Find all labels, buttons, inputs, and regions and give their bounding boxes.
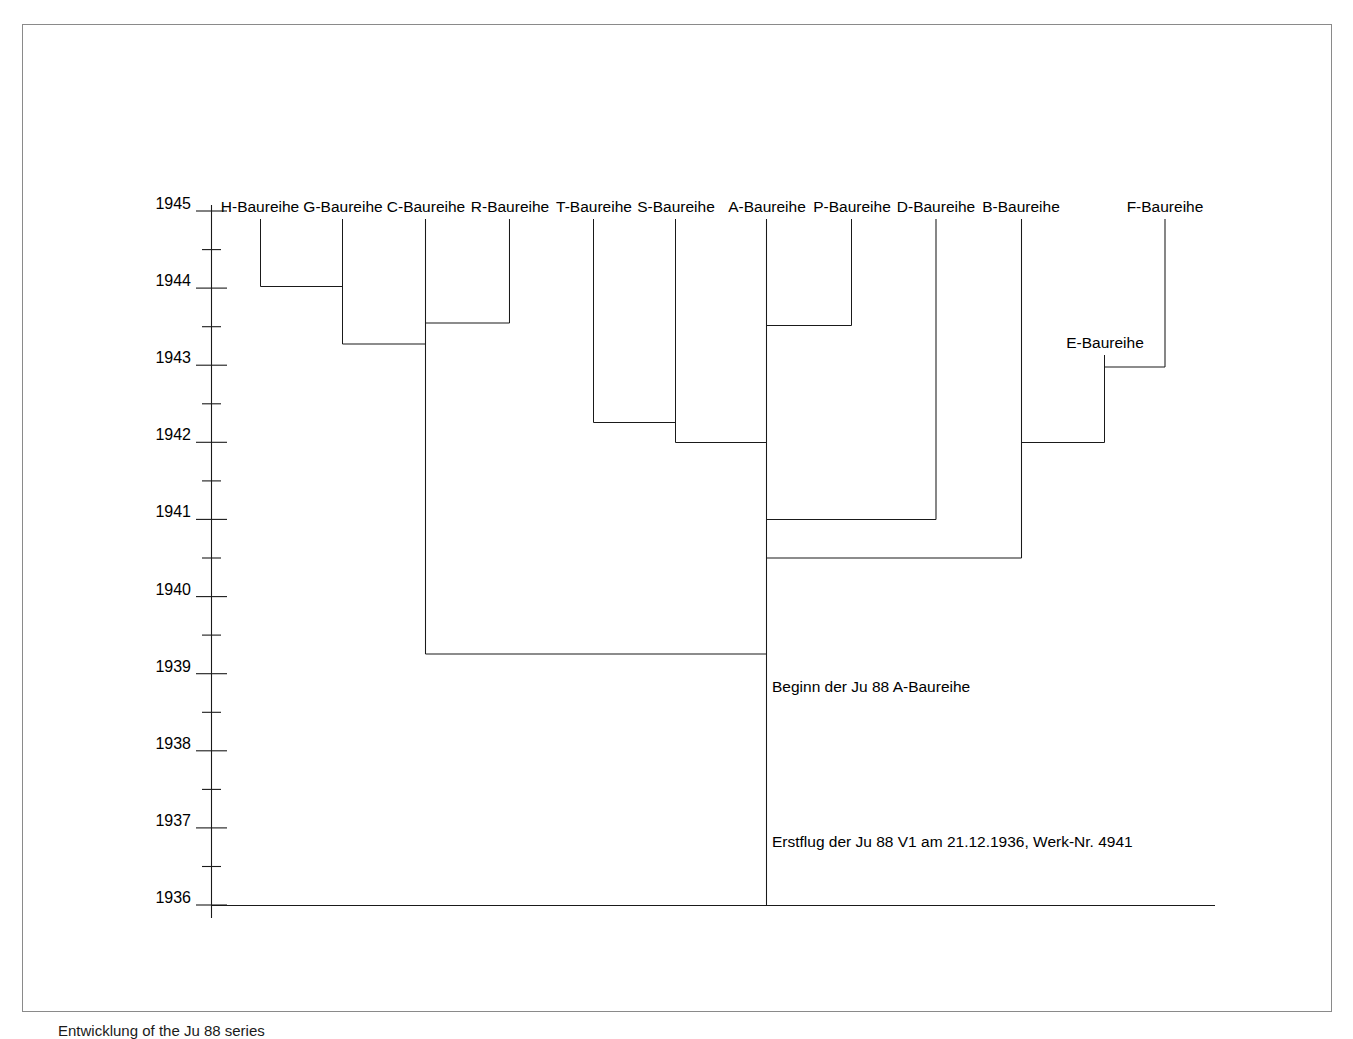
branch-s-baureihe[interactable]: [676, 219, 767, 443]
y-axis-label-1944: 1944: [155, 272, 191, 289]
y-axis-label-1937: 1937: [155, 812, 191, 829]
branch-p-baureihe[interactable]: [767, 219, 852, 326]
series-label-e: E-Baureihe: [1066, 334, 1144, 351]
y-axis-label-1936: 1936: [155, 889, 191, 906]
timeline-dendrogram-canvas: 1945 1944 1943 1942 1941 1940 1939 1938 …: [0, 0, 1353, 1039]
annotation-beginn-a-baureihe: Beginn der Ju 88 A-Baureihe: [772, 678, 970, 695]
series-label-r: R-Baureihe: [471, 198, 549, 215]
annotation-erstflug-v1: Erstflug der Ju 88 V1 am 21.12.1936, Wer…: [772, 833, 1133, 850]
figure-page: 1945 1944 1943 1942 1941 1940 1939 1938 …: [0, 0, 1353, 1039]
series-label-t: T-Baureihe: [556, 198, 632, 215]
series-label-b: B-Baureihe: [982, 198, 1060, 215]
y-axis-label-1939: 1939: [155, 658, 191, 675]
y-axis-label-1940: 1940: [155, 581, 191, 598]
series-label-group: H-Baureihe G-Baureihe C-Baureihe R-Baure…: [221, 198, 1204, 351]
series-label-c: C-Baureihe: [387, 198, 465, 215]
branch-t-baureihe[interactable]: [594, 219, 677, 423]
branch-e-baureihe[interactable]: [1022, 355, 1105, 443]
branch-g-baureihe[interactable]: [343, 219, 426, 344]
y-axis-label-1941: 1941: [155, 503, 191, 520]
series-label-d: D-Baureihe: [897, 198, 975, 215]
y-axis-label-1943: 1943: [155, 349, 191, 366]
series-label-a: A-Baureihe: [728, 198, 806, 215]
series-label-h: H-Baureihe: [221, 198, 299, 215]
branch-c-baureihe[interactable]: [426, 219, 767, 654]
branch-h-baureihe[interactable]: [261, 219, 344, 287]
y-axis-label-1945: 1945: [155, 195, 191, 212]
series-label-g: G-Baureihe: [303, 198, 382, 215]
branch-r-baureihe[interactable]: [425, 219, 510, 323]
branch-b-baureihe[interactable]: [767, 219, 1022, 558]
y-axis-label-1938: 1938: [155, 735, 191, 752]
series-label-f: F-Baureihe: [1127, 198, 1204, 215]
series-label-p: P-Baureihe: [813, 198, 891, 215]
figure-caption: Entwicklung of the Ju 88 series: [58, 1022, 265, 1039]
y-axis-label-1942: 1942: [155, 426, 191, 443]
series-label-s: S-Baureihe: [637, 198, 715, 215]
annotation-group: Beginn der Ju 88 A-Baureihe Erstflug der…: [772, 678, 1133, 850]
y-axis: 1945 1944 1943 1942 1941 1940 1939 1938 …: [155, 195, 227, 918]
